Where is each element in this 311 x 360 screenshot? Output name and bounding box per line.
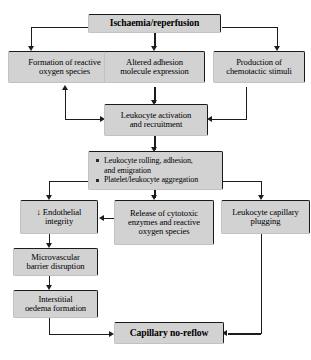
arrowhead-to-reactive-oxygen-feedback — [62, 85, 68, 90]
node-leukocyte-activation: Leukocyte activation and recruitment — [104, 104, 208, 136]
node-chemotactic-line2: chemotactic stimuli — [226, 66, 292, 76]
node-leukocyte-rolling-list: Leukocyte rolling, adhesion, and emigrat… — [96, 156, 198, 185]
node-altered-adhesion-text: Altered adhesion molecule expression — [118, 58, 191, 77]
list-item: Platelet/leukocyte aggregation — [96, 175, 198, 185]
node-cytotoxic-release: Release of cytotoxic enzymes and reactiv… — [114, 200, 214, 245]
node-plugging-text: Leukocyte capillary plugging — [230, 208, 301, 227]
node-endothelial-integrity: ↓ Endothelial integrity — [20, 200, 98, 234]
node-leukocyte-activation-line2: and recruitment — [130, 119, 183, 129]
connector-plugging-down — [261, 234, 263, 334]
connector-chemotactic-down — [246, 87, 247, 120]
node-plugging-line2: plugging — [251, 216, 281, 226]
node-capillary-no-reflow: Capillary no-reflow — [114, 322, 224, 344]
node-altered-adhesion: Altered adhesion molecule expression — [104, 51, 205, 83]
node-chemotactic-stimuli: Production of chemotactic stimuli — [213, 51, 305, 83]
list-item: Leukocyte rolling, adhesion, and emigrat… — [96, 156, 198, 176]
node-leukocyte-activation-text: Leukocyte activation and recruitment — [119, 111, 193, 130]
node-ischaemia-label: Ischaemia/reperfusion — [108, 18, 201, 28]
node-reactive-oxygen-text: Formation of reactive oxygen species — [26, 58, 102, 77]
node-endothelial-line2: integrity — [45, 216, 73, 226]
node-interstitial-oedema: Interstitial oedema formation — [13, 290, 98, 318]
node-leukocyte-plugging: Leukocyte capillary plugging — [221, 200, 310, 234]
node-reactive-oxygen-line2: oxygen species — [39, 66, 90, 76]
node-microvascular-text: Microvascular barrier disruption — [24, 253, 86, 272]
bullet-1-line2: and emigration — [104, 166, 151, 175]
node-cytotoxic-line3: oxygen species — [139, 226, 190, 236]
bullet-2-line1: Platelet/leukocyte aggregation — [104, 175, 198, 184]
flowchart-diagram: Ischaemia/reperfusion Formation of react… — [0, 0, 311, 360]
connector-plugging-to-noreflow — [228, 333, 261, 335]
node-ischaemia-reperfusion: Ischaemia/reperfusion — [88, 14, 221, 33]
node-cytotoxic-text: Release of cytotoxic enzymes and reactiv… — [126, 209, 202, 237]
connector-ros-feedback-horizontal — [65, 119, 103, 120]
connector-interstitial-down — [49, 318, 50, 335]
connector-ros-feedback-vertical — [65, 90, 66, 120]
connector-ischaemia-to-left — [31, 27, 88, 28]
node-altered-adhesion-line2: molecule expression — [120, 66, 189, 76]
connector-chemotactic-left — [212, 119, 247, 120]
node-endothelial-text: ↓ Endothelial integrity — [35, 208, 84, 227]
arrowhead-endothelial-right — [99, 215, 104, 221]
bullet-1-line1: Leukocyte rolling, adhesion, — [104, 156, 193, 165]
connector-interstitial-to-noreflow — [49, 334, 112, 335]
node-microvascular-line2: barrier disruption — [26, 261, 84, 271]
node-microvascular-barrier: Microvascular barrier disruption — [13, 248, 98, 276]
node-interstitial-line2: oedema formation — [25, 303, 86, 313]
node-interstitial-text: Interstitial oedema formation — [23, 295, 88, 314]
connector-ischaemia-to-right — [222, 27, 278, 28]
node-no-reflow-label: Capillary no-reflow — [128, 328, 211, 338]
node-chemotactic-text: Production of chemotactic stimuli — [224, 58, 294, 77]
node-leukocyte-rolling: Leukocyte rolling, adhesion, and emigrat… — [88, 151, 223, 190]
